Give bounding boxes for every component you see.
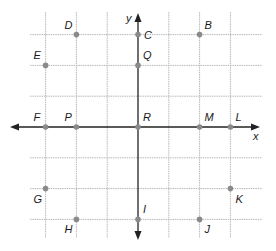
point-label: F [34,111,42,123]
x-axis-label: x [252,130,259,142]
point-marker [74,32,80,38]
point-label: G [34,193,43,205]
point-marker [135,63,141,69]
point-marker [74,124,80,130]
point-marker [228,124,234,130]
point-marker [135,217,141,223]
point-marker [135,124,141,130]
point-label: P [64,111,72,123]
x-axis-left-arrow-icon [10,124,19,131]
point-label: D [64,19,72,31]
point-label: I [143,203,146,215]
point-marker [228,186,234,192]
y-axis-up-arrow-icon [135,13,142,22]
point-label: C [144,29,152,41]
point-label: E [34,49,42,61]
point-label: Q [143,49,152,61]
point-label: R [143,111,151,123]
point-marker [74,217,80,223]
y-axis-down-arrow-icon [135,231,142,240]
point-marker [43,186,49,192]
y-axis-label: y [125,12,133,24]
point-label: B [205,19,212,31]
point-label: K [235,193,243,205]
point-label: M [205,111,215,123]
point-label: L [235,111,241,123]
point-label: J [204,223,211,235]
point-marker [197,217,203,223]
point-marker [135,32,141,38]
point-I: I [135,203,146,222]
point-marker [43,124,49,130]
point-marker [197,32,203,38]
point-label: H [64,223,72,235]
point-marker [197,124,203,130]
coordinate-plane: x y DCBEQFPRMLGKHIJ [0,0,276,251]
point-marker [43,63,49,69]
